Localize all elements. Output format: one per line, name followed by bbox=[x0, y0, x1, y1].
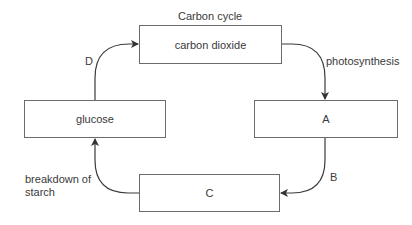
edge-label-line: breakdown of bbox=[25, 173, 105, 186]
node-label: glucose bbox=[76, 113, 114, 125]
arrow-photosynthesis bbox=[282, 44, 325, 99]
node-label: C bbox=[206, 187, 214, 199]
edge-label-line: starch bbox=[25, 186, 105, 199]
node-glucose: glucose bbox=[24, 100, 166, 138]
edge-label-b: B bbox=[330, 171, 337, 184]
carbon-cycle-diagram: Carbon cycle carbon dioxide glucose A C … bbox=[0, 0, 412, 225]
node-label: A bbox=[322, 113, 329, 125]
node-carbon-dioxide: carbon dioxide bbox=[139, 25, 282, 64]
edge-label-photosynthesis: photosynthesis bbox=[326, 55, 399, 68]
node-a: A bbox=[254, 100, 398, 138]
edge-label-breakdown: breakdown of starch bbox=[25, 173, 105, 199]
node-c: C bbox=[139, 174, 280, 212]
node-label: carbon dioxide bbox=[175, 39, 247, 51]
arrow-d bbox=[95, 44, 138, 100]
arrow-b bbox=[281, 138, 325, 193]
diagram-title: Carbon cycle bbox=[178, 10, 242, 23]
edge-label-d: D bbox=[85, 55, 93, 68]
